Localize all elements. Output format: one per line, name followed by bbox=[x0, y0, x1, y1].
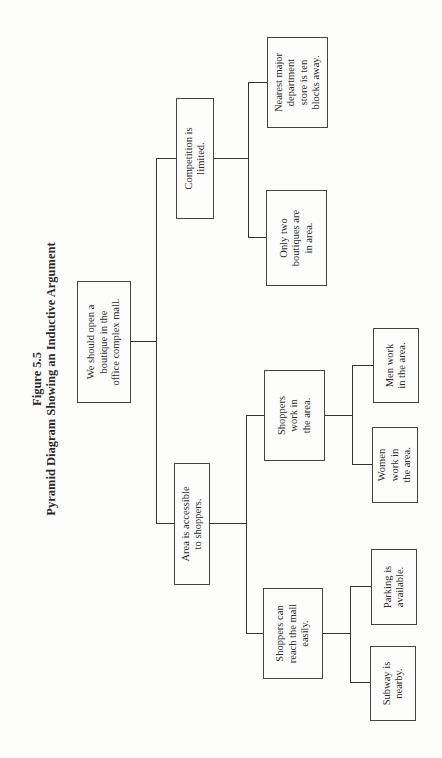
connector bbox=[246, 633, 263, 634]
connector bbox=[246, 415, 264, 416]
reason-area-accessible-box: Area is accessible to shoppers. bbox=[174, 463, 210, 585]
connector bbox=[350, 586, 371, 587]
connector bbox=[323, 633, 350, 634]
connector bbox=[248, 82, 249, 238]
connector bbox=[352, 365, 373, 366]
connector bbox=[325, 415, 352, 416]
connector bbox=[156, 158, 176, 159]
connector bbox=[214, 158, 248, 159]
connector bbox=[350, 586, 351, 683]
connector bbox=[352, 464, 372, 465]
connector bbox=[246, 415, 247, 634]
figure-number: Figure 5.5 bbox=[30, 0, 45, 758]
pyramid-diagram-page: Figure 5.5 Pyramid Diagram Showing an In… bbox=[0, 0, 442, 758]
connector bbox=[350, 682, 370, 683]
support-shoppers-reach-box: Shoppers can reach the mall easily. bbox=[263, 588, 323, 679]
figure-title: Pyramid Diagram Showing an Inductive Arg… bbox=[44, 0, 59, 758]
root-claim-box: We should open a boutique in the office … bbox=[77, 281, 131, 403]
connector bbox=[248, 237, 266, 238]
support-department-store-box: Nearest major department store is ten bl… bbox=[267, 37, 328, 128]
connector bbox=[156, 523, 174, 524]
support-two-boutiques-box: Only two boutiques are in area. bbox=[266, 190, 327, 286]
connector bbox=[248, 82, 267, 83]
evidence-subway-box: Subway is nearby. bbox=[370, 646, 416, 721]
connector bbox=[210, 523, 246, 524]
connector bbox=[352, 365, 353, 465]
evidence-parking-box: Parking is available. bbox=[371, 549, 417, 625]
evidence-women-work-box: Women work in the area. bbox=[372, 427, 418, 503]
connector bbox=[131, 341, 156, 342]
evidence-men-work-box: Men work in the area. bbox=[373, 328, 419, 403]
reason-competition-limited-box: Competition is limited. bbox=[176, 98, 214, 219]
support-shoppers-work-box: Shoppers work in the area. bbox=[264, 370, 325, 461]
connector bbox=[156, 158, 157, 524]
